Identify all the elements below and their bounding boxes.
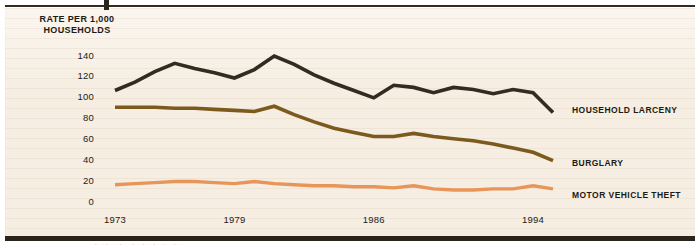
series-line-burglary bbox=[115, 106, 553, 160]
y-tick-label: 40 bbox=[58, 154, 94, 165]
y-tick-label: 80 bbox=[58, 112, 94, 123]
x-tick-label: 1994 bbox=[513, 214, 553, 225]
bottom-divider-rule bbox=[5, 236, 695, 241]
chart-figure: RATE PER 1,000 HOUSEHOLDS 02040608010012… bbox=[0, 0, 695, 249]
y-tick-label: 0 bbox=[58, 196, 94, 207]
legend-item-household-larceny: HOUSEHOLD LARCENY bbox=[572, 105, 677, 115]
x-tick-label: 1986 bbox=[354, 214, 394, 225]
x-tick-label: 1973 bbox=[95, 214, 135, 225]
legend-item-motor-vehicle-theft: MOTOR VEHICLE THEFT bbox=[572, 190, 681, 200]
x-tick-label: 1979 bbox=[214, 214, 254, 225]
y-tick-label: 140 bbox=[58, 50, 94, 61]
y-tick-label: 120 bbox=[58, 70, 94, 81]
plot-area bbox=[0, 0, 695, 249]
y-tick-label: 100 bbox=[58, 91, 94, 102]
bottom-bleed-text: • · ·· • · · ·· • · · · • ·· · • · ·· • … bbox=[5, 242, 695, 249]
y-tick-label: 20 bbox=[58, 175, 94, 186]
bottom-bleed-text-content: • · ·· • · · ·· • · · · • ·· · • · ·· • … bbox=[5, 242, 695, 248]
series-line-motor-vehicle-theft bbox=[115, 182, 553, 190]
y-tick-label: 60 bbox=[58, 133, 94, 144]
series-line-household-larceny bbox=[115, 56, 553, 113]
legend-item-burglary: BURGLARY bbox=[572, 158, 623, 168]
series-lines-svg bbox=[0, 0, 695, 249]
